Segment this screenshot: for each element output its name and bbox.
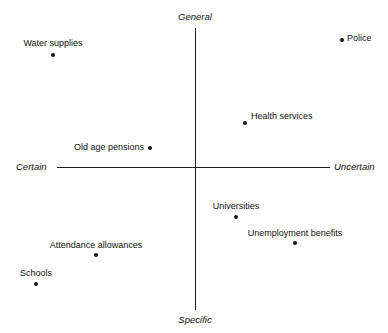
data-point bbox=[34, 282, 38, 286]
axis-label-uncertain: Uncertain bbox=[334, 161, 375, 172]
perceptual-map-chart: General Specific Certain Uncertain Polic… bbox=[0, 0, 388, 333]
data-point bbox=[234, 215, 238, 219]
data-point-label: Attendance allowances bbox=[50, 240, 143, 250]
axis-label-certain: Certain bbox=[16, 161, 47, 172]
data-point-label: Old age pensions bbox=[74, 142, 144, 152]
data-point bbox=[94, 253, 98, 257]
data-point bbox=[293, 241, 297, 245]
data-point-label: Universities bbox=[213, 201, 260, 211]
vertical-axis-line bbox=[195, 28, 196, 310]
data-point-label: Police bbox=[347, 33, 372, 43]
data-point bbox=[340, 38, 344, 42]
axis-label-general: General bbox=[178, 11, 212, 22]
horizontal-axis-line bbox=[57, 167, 330, 168]
data-point-label: Health services bbox=[251, 111, 313, 121]
data-point-label: Water supplies bbox=[23, 38, 82, 48]
data-point-label: Unemployment benefits bbox=[248, 228, 343, 238]
data-point bbox=[148, 146, 152, 150]
data-point bbox=[51, 53, 55, 57]
data-point-label: Schools bbox=[20, 268, 52, 278]
axis-label-specific: Specific bbox=[178, 314, 211, 325]
data-point bbox=[243, 121, 247, 125]
